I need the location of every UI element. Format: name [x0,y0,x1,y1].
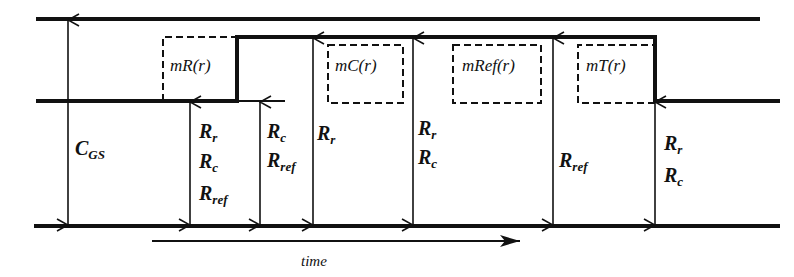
timing-diagram: mR(r) mC(r) mRef(r) mT(r) CGS Rr Rc Rref… [0,0,794,277]
label-cgs: CGS [75,137,105,162]
box-mT: mT(r) [578,45,655,103]
label-a1-rc: Rc [198,150,218,175]
label-a2-rc: Rc [266,120,286,145]
label-a3-rr: Rr [316,122,336,147]
box-mRef-label: mRef(r) [462,56,515,75]
label-a6-rc: Rc [663,164,683,189]
label-a1-rref: Rref [198,182,229,207]
box-mR-label: mR(r) [170,56,211,75]
label-a4-rc: Rc [417,146,437,171]
signal-waveform [36,37,780,101]
label-a2-rref: Rref [266,149,297,174]
label-a1-rr: Rr [198,120,218,145]
box-mRef: mRef(r) [453,45,541,103]
label-a5-rref: Rref [558,149,589,174]
label-a4-rr: Rr [417,117,437,142]
box-mT-label: mT(r) [586,56,626,75]
box-mC: mC(r) [328,45,403,103]
box-mC-label: mC(r) [335,56,377,75]
label-a6-rr: Rr [663,132,683,157]
box-mR: mR(r) [163,37,237,101]
time-label: time [301,253,327,269]
